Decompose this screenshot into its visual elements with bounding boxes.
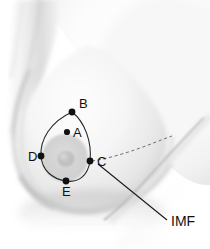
nipple xyxy=(58,151,75,167)
landmark-dot-B[interactable] xyxy=(69,109,76,116)
nipple-highlight xyxy=(60,153,67,159)
landmark-label-E: E xyxy=(62,184,71,199)
landmark-label-A: A xyxy=(73,125,82,140)
landmark-label-B: B xyxy=(79,96,88,111)
landmark-dot-D[interactable] xyxy=(38,153,45,160)
landmark-dot-C[interactable] xyxy=(87,158,94,165)
landmark-dot-A[interactable] xyxy=(64,129,70,135)
landmark-label-D: D xyxy=(28,149,37,164)
breast-landmark-figure: A B C D E IMF xyxy=(0,0,210,249)
landmark-label-C: C xyxy=(97,154,106,169)
areola-group xyxy=(42,134,88,182)
imf-annotation-label: IMF xyxy=(171,213,195,229)
figure-canvas: A B C D E IMF xyxy=(0,0,210,249)
